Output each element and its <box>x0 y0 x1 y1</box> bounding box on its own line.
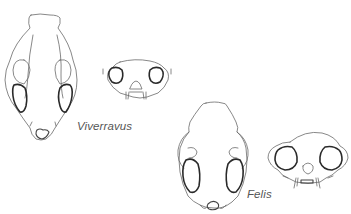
felis-label: Felis <box>247 188 272 200</box>
felis-frontal-skull <box>0 0 351 214</box>
skull-comparison-figure: Viverravus Felis <box>0 0 351 214</box>
viverravus-label: Viverravus <box>77 120 132 132</box>
